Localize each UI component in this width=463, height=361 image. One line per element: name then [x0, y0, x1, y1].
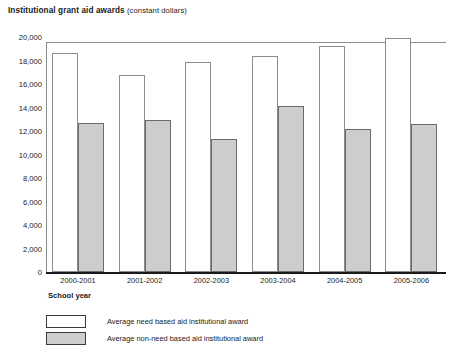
x-axis-tick-label: 2005-2006 [394, 276, 429, 285]
bar-non-need-based [345, 129, 371, 272]
bar-need-based [119, 75, 145, 272]
chart-legend: Average need based aid institutional awa… [46, 313, 263, 347]
y-axis-tick-label: 4,000 [23, 221, 42, 230]
x-axis-tick-label: 2004-2005 [327, 276, 362, 285]
y-axis-tick-label: 20,000 [19, 33, 42, 42]
bar-group [385, 37, 437, 272]
plot-area [46, 37, 446, 272]
plot-frame-left-border [46, 42, 47, 272]
bar-non-need-based [145, 120, 171, 272]
bar-need-based [252, 56, 278, 272]
bar-need-based [185, 62, 211, 272]
x-axis-tick-label: 2000-2001 [60, 276, 95, 285]
y-axis-tick-label: 14,000 [19, 103, 42, 112]
bar-need-based [385, 38, 411, 272]
x-axis-title: School year [48, 291, 91, 300]
bar-non-need-based [411, 124, 437, 272]
y-axis-tick-label: 6,000 [23, 197, 42, 206]
legend-label-nonneed: Average non-need based aid institutional… [107, 334, 263, 343]
bar-group [252, 37, 304, 272]
legend-label-need: Average need based aid institutional awa… [107, 317, 248, 326]
bar-need-based [319, 46, 345, 272]
chart-figure: Institutional grant aid awards (constant… [0, 0, 463, 361]
bar-group [185, 37, 237, 272]
bar-need-based [52, 53, 78, 272]
legend-item-need: Average need based aid institutional awa… [46, 313, 263, 330]
chart-title-units: (constant dollars) [127, 6, 187, 15]
bar-non-need-based [278, 106, 304, 272]
y-axis-tick-label: 8,000 [23, 174, 42, 183]
bar-non-need-based [211, 139, 237, 272]
y-axis-tick-label: 18,000 [19, 56, 42, 65]
x-axis-tick-label: 2002-2003 [194, 276, 229, 285]
y-axis-tick-label: 10,000 [19, 150, 42, 159]
bar-group [119, 37, 171, 272]
x-axis-baseline [46, 272, 446, 274]
bar-group [319, 37, 371, 272]
y-axis-tick-label: 12,000 [19, 127, 42, 136]
y-axis: 02,0004,0006,0008,00010,00012,00014,0001… [0, 0, 42, 361]
x-axis-tick-label: 2003-2004 [260, 276, 295, 285]
legend-item-nonneed: Average non-need based aid institutional… [46, 330, 263, 347]
bar-non-need-based [78, 123, 104, 272]
legend-swatch-nonneed [46, 332, 86, 345]
bar-group [52, 37, 104, 272]
y-axis-tick-label: 16,000 [19, 80, 42, 89]
legend-swatch-need [46, 315, 86, 328]
y-axis-tick-label: 0 [38, 268, 42, 277]
x-axis-tick-label: 2001-2002 [127, 276, 162, 285]
y-axis-tick-label: 2,000 [23, 244, 42, 253]
